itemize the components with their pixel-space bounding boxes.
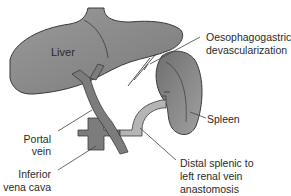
label-distal-1: Distal splenic to (180, 157, 254, 169)
label-oesophagogastric-1: Oesophagogastric (206, 31, 291, 43)
leader-ivc (58, 146, 96, 170)
label-portal-2: vein (32, 145, 51, 157)
label-oesophagogastric-2: devascularization (206, 44, 287, 56)
label-spleen: Spleen (207, 113, 240, 125)
label-portal-1: Portal (24, 133, 51, 145)
diagram: Liver Oesophagogastric devascularization… (0, 0, 291, 196)
label-ivc-2: vena cava (3, 181, 51, 193)
label-distal-3: anastomosis (180, 183, 239, 195)
label-ivc-1: Inferior (18, 168, 51, 180)
spleen-shape (156, 51, 202, 134)
leader-distal (140, 128, 176, 160)
label-distal-2: left renal vein (180, 170, 242, 182)
label-liver: Liver (51, 46, 75, 58)
leader-portal (58, 110, 92, 131)
